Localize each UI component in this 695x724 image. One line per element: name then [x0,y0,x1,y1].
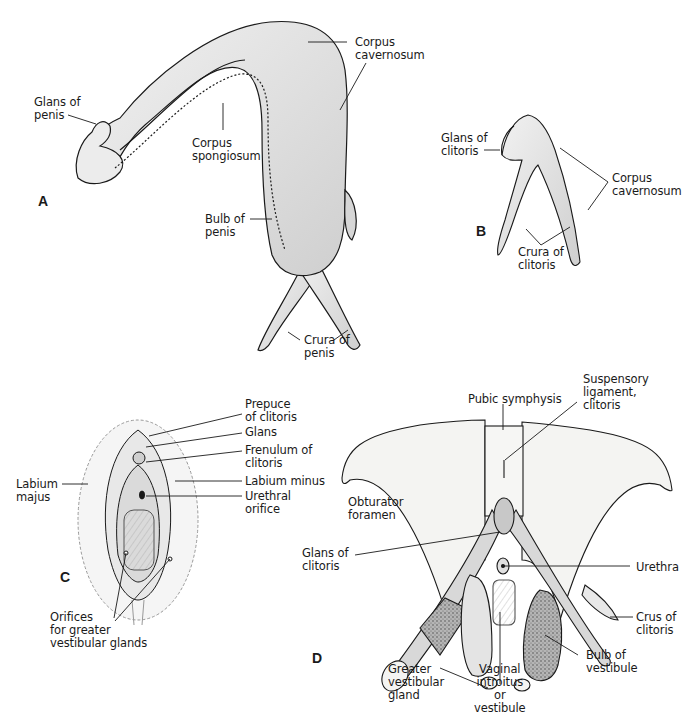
panel-letter-d: D [312,650,322,666]
panel-a-drawing [76,22,360,351]
label-corpus-cavernosum-a: Corpus cavernosum [355,36,425,62]
panel-letter-c: C [60,569,70,585]
label-bulb-of-penis: Bulb of penis [205,213,245,239]
label-corpus-spongiosum: Corpus spongiosum [192,137,261,163]
panel-letter-b: B [476,223,486,239]
label-crura-of-clitoris: Crura of clitoris [518,246,564,272]
panel-letter-a: A [38,193,48,209]
label-glans-of-penis: Glans of penis [34,96,80,122]
label-orifices-greater-vestibular-glands: Orifices for greater vestibular glands [50,611,147,650]
label-suspensory-ligament-clitoris: Suspensory ligament, clitoris [583,373,649,412]
label-glans-of-clitoris-d: Glans of clitoris [302,547,348,573]
label-crura-of-penis: Crura of penis [304,334,350,360]
label-obturator-foramen: Obturator foramen [348,496,403,522]
label-urethral-orifice: Urethral orifice [245,490,291,516]
label-bulb-of-vestibule: Bulb of vestibule [586,649,638,675]
label-glans-c: Glans [245,426,277,439]
label-pubic-symphysis: Pubic symphysis [468,393,562,406]
label-vaginal-introitus-or-vestibule: Vaginal introitus or vestibule [474,663,526,715]
label-frenulum-of-clitoris: Frenulum of clitoris [245,444,312,470]
anatomy-figure: A B C D Glans of penis Corpus cavernosum… [0,0,695,724]
label-urethra: Urethra [636,561,679,574]
panel-c-drawing [78,420,198,625]
label-prepuce-of-clitoris: Prepuce of clitoris [245,398,297,424]
label-labium-majus: Labium majus [16,478,58,504]
label-labium-minus: Labium minus [245,475,325,488]
label-greater-vestibular-gland: Greater vestibular gland [388,663,444,702]
label-glans-of-clitoris-b: Glans of clitoris [441,132,487,158]
label-corpus-cavernosum-b: Corpus cavernosum [612,172,682,198]
label-crus-of-clitoris: Crus of clitoris [636,611,676,637]
